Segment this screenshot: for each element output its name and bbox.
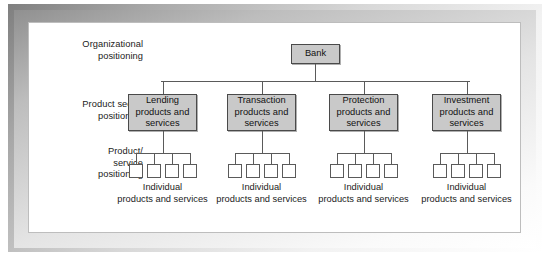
connector-leaf-stem-3-3 — [373, 153, 374, 164]
connector-leaf-bus-3 — [337, 153, 391, 154]
connector-main-bus — [161, 81, 470, 82]
connector-leaf-stem-3-4 — [391, 153, 392, 164]
connector-leaf-bus-1 — [136, 153, 190, 154]
connector-leaf-stem-2-1 — [235, 153, 236, 164]
row-label-organizational-positioning: Organizational positioning — [43, 39, 143, 62]
connector-leaf-stem-4-4 — [494, 153, 495, 164]
node-sector-1[interactable]: Lending products and services — [128, 94, 197, 131]
node-leaf-2-2[interactable] — [246, 164, 260, 178]
node-bank[interactable]: Bank — [291, 44, 340, 64]
connector-sector-stem-4 — [467, 131, 468, 153]
node-sector-4[interactable]: Investment products and services — [432, 94, 501, 131]
connector-sector-stem-2 — [262, 131, 263, 153]
connector-leaf-stem-4-1 — [440, 153, 441, 164]
node-leaf-4-3[interactable] — [469, 164, 483, 178]
node-sector-3[interactable]: Protection products and services — [329, 94, 398, 131]
connector-sector-stem-3 — [364, 131, 365, 153]
node-leaf-4-1[interactable] — [433, 164, 447, 178]
connector-leaf-bus-4 — [440, 153, 494, 154]
connector-leaf-stem-4-3 — [476, 153, 477, 164]
node-leaf-3-2[interactable] — [348, 164, 362, 178]
node-leaf-1-1[interactable] — [129, 164, 143, 178]
node-leaf-1-4[interactable] — [183, 164, 197, 178]
connector-sector-stem-1 — [163, 131, 164, 153]
node-leaf-3-4[interactable] — [384, 164, 398, 178]
node-leaf-1-3[interactable] — [165, 164, 179, 178]
connector-leaf-stem-1-1 — [136, 153, 137, 164]
node-leaf-2-4[interactable] — [282, 164, 296, 178]
connector-leaf-stem-2-3 — [271, 153, 272, 164]
connector-bus-to-sector-2 — [262, 81, 263, 94]
connector-leaf-bus-2 — [235, 153, 289, 154]
connector-leaf-stem-2-2 — [253, 153, 254, 164]
connector-leaf-stem-2-4 — [289, 153, 290, 164]
node-leaf-2-1[interactable] — [228, 164, 242, 178]
caption-sector-4: Individual products and services — [402, 182, 532, 205]
diagram-panel: Organizational positioning Product secto… — [28, 22, 521, 233]
node-sector-2[interactable]: Transaction products and services — [227, 94, 296, 131]
row-label-product-service-positioning: Product/ service positioning — [43, 146, 143, 181]
connector-bus-to-sector-1 — [163, 81, 164, 94]
connector-leaf-stem-1-4 — [190, 153, 191, 164]
node-leaf-3-1[interactable] — [330, 164, 344, 178]
connector-leaf-stem-3-2 — [355, 153, 356, 164]
connector-leaf-stem-3-1 — [337, 153, 338, 164]
node-leaf-4-2[interactable] — [451, 164, 465, 178]
node-leaf-3-3[interactable] — [366, 164, 380, 178]
connector-leaf-stem-4-2 — [458, 153, 459, 164]
node-leaf-4-4[interactable] — [487, 164, 501, 178]
node-leaf-2-3[interactable] — [264, 164, 278, 178]
connector-leaf-stem-1-2 — [154, 153, 155, 164]
connector-leaf-stem-1-3 — [172, 153, 173, 164]
connector-root-stem — [315, 64, 316, 81]
node-leaf-1-2[interactable] — [147, 164, 161, 178]
connector-bus-to-sector-3 — [364, 81, 365, 94]
connector-bus-to-sector-4 — [467, 81, 468, 94]
diagram-screenshot: Organizational positioning Product secto… — [0, 0, 550, 259]
